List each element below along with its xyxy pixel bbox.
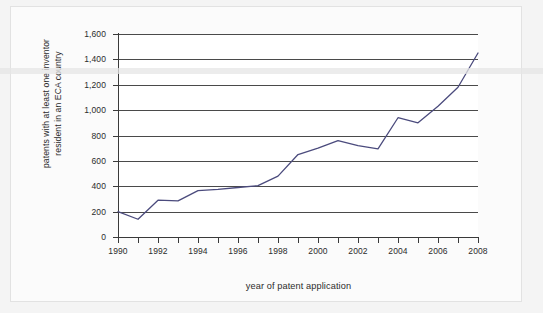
x-axis-tick: [298, 238, 299, 243]
x-axis-tick-label: 1996: [218, 247, 258, 256]
x-axis-tick: [338, 238, 339, 243]
y-axis-title-line-1: patents with at least one inventor: [41, 4, 53, 204]
x-axis-tick-label: 1990: [98, 247, 138, 256]
x-axis-tick: [318, 238, 319, 243]
x-axis-tick-label: 2006: [418, 247, 458, 256]
x-axis-tick: [238, 238, 239, 243]
x-axis-tick: [158, 238, 159, 243]
data-series-line: [118, 34, 478, 237]
x-axis-tick-label: 2000: [298, 247, 338, 256]
line-chart: 02004006008001,0001,2001,4001,600 199019…: [0, 0, 543, 313]
y-axis-title-line-2: resident in an ECA country: [52, 4, 64, 204]
y-axis-tick-label: 0: [62, 233, 106, 242]
y-axis-tick-label: 400: [62, 182, 106, 191]
x-axis-tick: [478, 238, 479, 243]
x-axis-tick: [418, 238, 419, 243]
x-axis-tick: [138, 238, 139, 243]
y-axis-title: patents with at least one inventor resid…: [41, 4, 64, 204]
x-axis-tick: [358, 238, 359, 243]
x-axis-tick: [398, 238, 399, 243]
x-axis-tick: [438, 238, 439, 243]
y-axis-tick-label: 1,600: [62, 30, 106, 39]
y-axis-tick-label: 1,000: [62, 106, 106, 115]
x-axis-tick: [178, 238, 179, 243]
x-axis-tick-label: 1998: [258, 247, 298, 256]
x-axis-tick: [258, 238, 259, 243]
x-axis-tick-label: 2004: [378, 247, 418, 256]
y-axis-tick-label: 200: [62, 208, 106, 217]
y-axis-tick-label: 1,200: [62, 81, 106, 90]
x-axis-tick: [378, 238, 379, 243]
y-axis-tick-label: 600: [62, 157, 106, 166]
y-axis-tick-label: 1,400: [62, 55, 106, 64]
x-axis-title: year of patent application: [118, 281, 479, 291]
x-axis-tick-label: 1994: [178, 247, 218, 256]
x-axis-tick-label: 2008: [458, 247, 498, 256]
x-axis-tick: [118, 238, 119, 243]
x-axis-tick-label: 1992: [138, 247, 178, 256]
x-axis-tick: [198, 238, 199, 243]
series-line: [118, 53, 478, 219]
x-axis-tick-label: 2002: [338, 247, 378, 256]
y-axis-tick-label: 800: [62, 132, 106, 141]
x-axis-tick: [218, 238, 219, 243]
scanned-page: 02004006008001,0001,2001,4001,600 199019…: [0, 0, 543, 313]
x-axis-tick: [278, 238, 279, 243]
x-axis-tick: [458, 238, 459, 243]
